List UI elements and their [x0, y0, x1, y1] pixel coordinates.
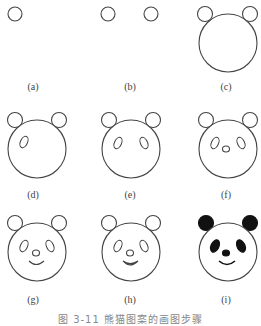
- panel-label-f: (f): [221, 189, 231, 200]
- panel-c-drawing: [198, 7, 258, 73]
- panel-label-i: (i): [221, 294, 230, 305]
- panel-label-b: (b): [124, 81, 136, 92]
- panel-label-c: (c): [220, 81, 231, 92]
- face-circle-icon: [199, 120, 257, 178]
- panel-g-drawing: [8, 216, 67, 282]
- ear-circle-icon: [144, 7, 158, 21]
- panel-label-g: (g): [27, 294, 39, 305]
- panel-e-drawing: [102, 113, 161, 179]
- ear-circle-icon: [101, 7, 115, 21]
- panel-i-drawing: [199, 216, 258, 282]
- panel-h-drawing: [102, 216, 161, 282]
- panel-label-e: (e): [124, 189, 135, 200]
- face-circle-icon: [8, 120, 66, 178]
- ear-circle-icon: [198, 7, 213, 22]
- panel-f-drawing: [199, 113, 258, 179]
- panel-b-drawing: [101, 7, 158, 21]
- ear-circle-icon: [8, 7, 22, 21]
- face-circle-icon: [102, 120, 160, 178]
- panel-label-h: (h): [124, 294, 136, 305]
- face-circle-icon: [102, 223, 160, 281]
- face-circle-icon: [199, 14, 257, 72]
- panel-label-a: (a): [27, 81, 38, 92]
- nose-filled-icon: [223, 250, 230, 256]
- panel-label-d: (d): [27, 189, 39, 200]
- figure-caption: 图 3-11 熊猫图案的画图步骤: [58, 311, 203, 326]
- panel-d-drawing: [8, 113, 67, 179]
- panel-a-drawing: [8, 7, 22, 21]
- face-circle-icon: [8, 223, 66, 281]
